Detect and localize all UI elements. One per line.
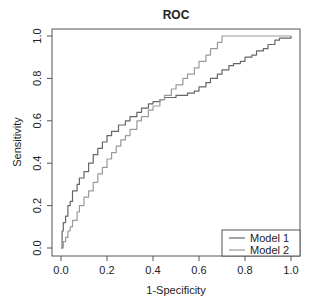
roc-line-1 [61,36,291,248]
y-tick-label: 0.8 [31,71,43,86]
series-lines [61,36,291,248]
y-tick-label: 0.0 [31,240,43,255]
legend: Model 1 Model 2 [222,230,300,256]
x-axis: 0.00.20.40.60.81.0 [53,256,298,276]
legend-label-model-2: Model 2 [250,244,289,256]
x-tick-label: 0.8 [237,264,252,276]
y-axis: 0.00.20.40.60.81.0 [31,28,52,255]
roc-line-2 [61,36,291,248]
roc-chart: ROC 0.00.20.40.60.81.0 0.00.20.40.60.81.… [0,0,316,308]
x-tick-label: 1.0 [283,264,298,276]
y-tick-label: 0.4 [31,156,43,171]
x-tick-label: 0.4 [145,264,160,276]
plot-area [52,29,300,256]
y-tick-label: 1.0 [31,28,43,43]
chart-title: ROC [163,8,190,22]
y-tick-label: 0.2 [31,198,43,213]
x-tick-label: 0.2 [99,264,114,276]
x-tick-label: 0.0 [53,264,68,276]
y-axis-label: Sensitivity [11,117,23,167]
x-tick-label: 0.6 [191,264,206,276]
x-axis-label: 1-Specificity [146,284,206,296]
legend-label-model-1: Model 1 [250,232,289,244]
y-tick-label: 0.6 [31,113,43,128]
